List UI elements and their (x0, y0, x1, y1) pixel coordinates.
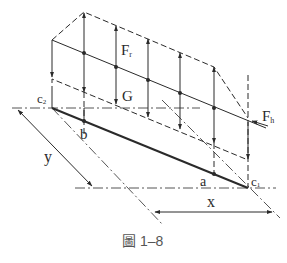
label-g: G (122, 88, 133, 104)
label-b: b (80, 126, 88, 142)
label-y: y (44, 148, 52, 166)
figure-caption: 圖 1–8 (122, 233, 163, 249)
label-fr: Fr (121, 42, 132, 59)
diagonal-axis-left (52, 108, 163, 225)
force-diagram: Fr G Fh c2 b a c1 y x 圖 1–8 (0, 0, 287, 263)
label-c1: c1 (251, 174, 261, 189)
dimension-y (18, 110, 92, 186)
label-c2: c2 (37, 91, 47, 106)
label-a: a (200, 174, 207, 189)
node-points (82, 51, 216, 176)
label-fh: Fh (262, 108, 274, 125)
label-x: x (207, 193, 215, 210)
fr-envelope-dashed (52, 12, 248, 118)
